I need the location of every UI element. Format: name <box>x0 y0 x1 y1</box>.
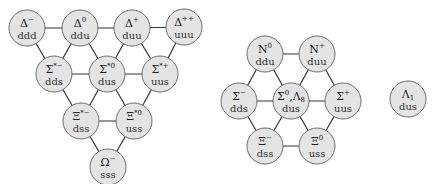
particle-n-plus: N+duu <box>299 36 335 72</box>
quark-content: sss <box>100 169 115 180</box>
particle-sigma-star-plus: Σ*+uus <box>142 56 178 92</box>
quark-content: dus <box>399 101 417 112</box>
quark-content: ddd <box>17 30 37 41</box>
quark-content: duu <box>307 56 327 67</box>
particle-delta-plus: Δ+duu <box>114 10 150 46</box>
particle-delta-minus: Δ−ddd <box>9 10 45 46</box>
quark-content: duu <box>122 30 142 41</box>
particle-sigma-plus: Σ+uus <box>325 83 361 119</box>
quark-content: uss <box>126 123 143 134</box>
quark-content: dds <box>230 103 248 114</box>
quark-content: dus <box>282 103 300 114</box>
particle-sigma-star-minus: Σ*−dds <box>36 56 72 92</box>
particle-delta-plusplus: Δ++uuu <box>166 9 202 45</box>
quark-content: uus <box>334 103 352 114</box>
quark-content: dss <box>257 148 274 159</box>
quark-content: uss <box>309 148 326 159</box>
particle-omega-minus: Ω−sss <box>90 149 126 184</box>
particle-delta-zero: Δ0ddu <box>62 10 98 46</box>
particle-sigma-minus: Σ−dds <box>221 83 257 119</box>
particle-xi-star-zero: Ξ*0uss <box>116 103 152 139</box>
particle-sigma-zero-lambda8: Σ0,Λ8dus <box>273 83 309 119</box>
nodes: Δ−dddΔ0dduΔ+duuΔ++uuuΣ*−ddsΣ*0dusΣ*+uusΞ… <box>9 9 426 184</box>
baryon-multiplets-diagram: Δ−dddΔ0dduΔ+duuΔ++uuuΣ*−ddsΣ*0dusΣ*+uusΞ… <box>0 0 434 184</box>
quark-content: dds <box>45 76 63 87</box>
particle-xi-zero: Ξ0uss <box>299 128 335 164</box>
particle-sigma-star-zero: Σ*0dus <box>89 56 125 92</box>
quark-content: dss <box>73 123 90 134</box>
quark-content: uuu <box>174 29 194 40</box>
quark-content: ddu <box>255 56 275 67</box>
quark-content: dus <box>98 76 116 87</box>
quark-content: uus <box>151 76 169 87</box>
particle-n-zero: N0ddu <box>247 36 283 72</box>
particle-xi-star-minus: Ξ*−dss <box>63 103 99 139</box>
quark-content: ddu <box>70 30 90 41</box>
particle-lambda-one: Λ1dus <box>390 81 426 117</box>
particle-xi-minus: Ξ−dss <box>247 128 283 164</box>
